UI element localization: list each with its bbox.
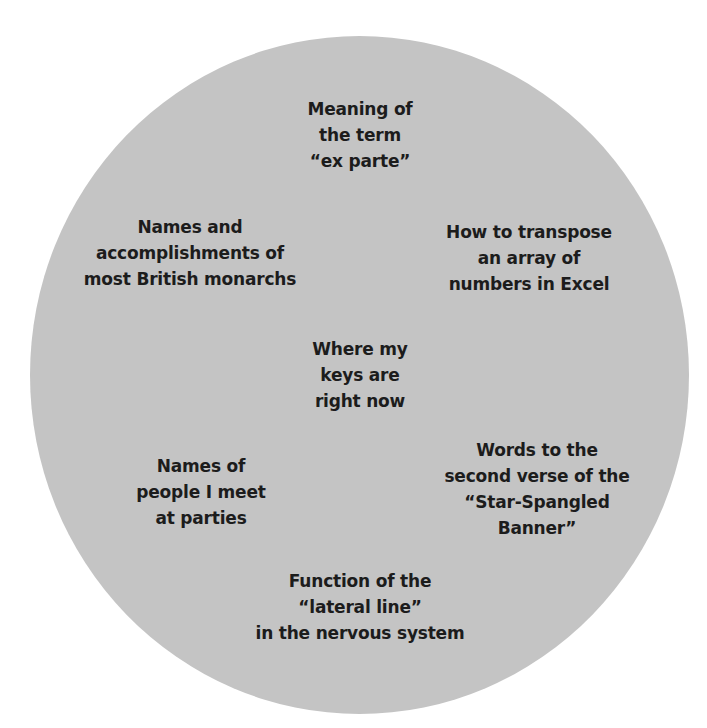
item-line: Function of the (256, 568, 465, 594)
item-line: “ex parte” (307, 148, 412, 174)
item-line: second verse of the (444, 463, 629, 489)
item-line: “lateral line” (256, 594, 465, 620)
item-names-at-parties: Names of people I meet at parties (136, 453, 265, 531)
item-line: people I meet (136, 479, 265, 505)
item-line: keys are (312, 362, 407, 388)
item-line: How to transpose (446, 219, 612, 245)
item-keys: Where my keys are right now (312, 336, 407, 414)
item-line: Names and (84, 214, 296, 240)
item-line: most British monarchs (84, 266, 296, 292)
item-ex-parte: Meaning of the term “ex parte” (307, 96, 412, 174)
item-line: at parties (136, 505, 265, 531)
item-line: an array of (446, 245, 612, 271)
item-line: the term (307, 122, 412, 148)
item-lateral-line: Function of the “lateral line” in the ne… (256, 568, 465, 646)
item-line: accomplishments of (84, 240, 296, 266)
item-line: numbers in Excel (446, 271, 612, 297)
item-star-spangled-banner: Words to the second verse of the “Star-S… (444, 437, 629, 541)
item-line: right now (312, 388, 407, 414)
item-line: Banner” (444, 515, 629, 541)
item-british-monarchs: Names and accomplishments of most Britis… (84, 214, 296, 292)
item-line: Where my (312, 336, 407, 362)
item-line: Names of (136, 453, 265, 479)
item-line: in the nervous system (256, 620, 465, 646)
item-line: Words to the (444, 437, 629, 463)
item-excel-transpose: How to transpose an array of numbers in … (446, 219, 612, 297)
item-line: Meaning of (307, 96, 412, 122)
item-line: “Star-Spangled (444, 489, 629, 515)
